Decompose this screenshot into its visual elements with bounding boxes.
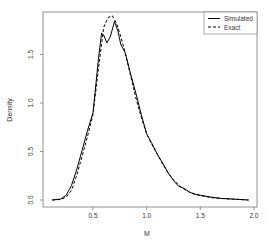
plot-box [43,12,257,207]
legend-label-simulated: Simulated [224,15,253,22]
x-tick-label: 0.5 [88,212,97,219]
x-axis: 0.51.01.52.0 [88,207,258,219]
density-chart: 0.51.01.52.0 0.00.51.01.5 M Density Simu… [0,0,269,247]
y-axis-label: Density [6,98,14,122]
y-tick-label: 0.0 [27,195,34,204]
y-axis: 0.00.51.01.5 [27,50,43,205]
x-tick-label: 1.5 [196,212,205,219]
x-tick-label: 1.0 [142,212,151,219]
y-tick-label: 1.5 [27,50,34,59]
x-tick-label: 2.0 [249,212,258,219]
y-tick-label: 0.5 [27,147,34,156]
series-layer [52,16,248,200]
y-tick-label: 1.0 [27,98,34,107]
series-exact [52,16,248,200]
legend-label-exact: Exact [224,24,240,31]
legend: Simulated Exact [204,12,257,34]
series-simulated [52,22,248,201]
x-axis-label: M [144,230,150,237]
